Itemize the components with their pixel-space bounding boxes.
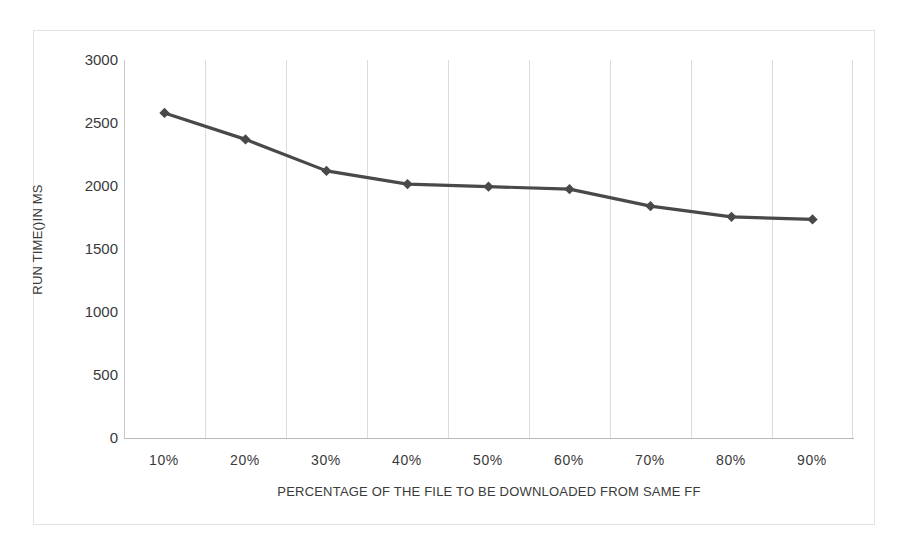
y-tick-label: 2500 (56, 115, 118, 130)
x-tick-label: 80% (691, 452, 771, 468)
x-tick-label: 90% (772, 452, 852, 468)
gridline-vertical (772, 60, 773, 438)
y-tick-label: 0 (56, 430, 118, 445)
gridline-vertical (367, 60, 368, 438)
x-tick-label: 50% (448, 452, 528, 468)
x-tick-label: 20% (205, 452, 285, 468)
gridline-vertical (205, 60, 206, 438)
x-axis-title: PERCENTAGE OF THE FILE TO BE DOWNLOADED … (124, 484, 854, 499)
gridline-vertical (610, 60, 611, 438)
chart-screenshot: 3000 2500 2000 1500 1000 500 0 10% 20% 3… (0, 0, 908, 554)
gridline-vertical (529, 60, 530, 438)
gridline-vertical (852, 60, 853, 438)
y-axis-line (124, 60, 125, 439)
y-axis-tick-labels: 3000 2500 2000 1500 1000 500 0 (48, 0, 118, 554)
x-tick-label: 40% (367, 452, 447, 468)
gridline-vertical (286, 60, 287, 438)
y-axis-title: RUN TIME()IN MS (30, 175, 45, 305)
x-tick-label: 70% (610, 452, 690, 468)
x-tick-label: 30% (286, 452, 366, 468)
y-tick-label: 500 (56, 367, 118, 382)
y-tick-label: 1500 (56, 241, 118, 256)
gridline-vertical (448, 60, 449, 438)
x-tick-label: 60% (529, 452, 609, 468)
plot-area (124, 60, 853, 438)
y-tick-label: 1000 (56, 304, 118, 319)
gridline-vertical (691, 60, 692, 438)
x-tick-label: 10% (124, 452, 204, 468)
y-tick-label: 3000 (56, 52, 118, 67)
x-axis-line (124, 438, 854, 439)
y-tick-label: 2000 (56, 178, 118, 193)
